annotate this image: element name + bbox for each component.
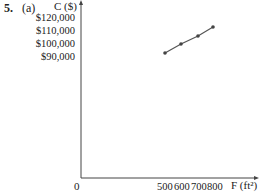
x-axis-label: F (ft²) [231, 179, 257, 191]
x-tick-600: 600 [174, 181, 190, 192]
chart-plot [0, 0, 261, 192]
x-tick-500: 500 [157, 181, 173, 192]
x-tick-700: 700 [191, 181, 207, 192]
origin-label: 0 [74, 180, 80, 192]
x-tick-800: 800 [207, 181, 223, 192]
